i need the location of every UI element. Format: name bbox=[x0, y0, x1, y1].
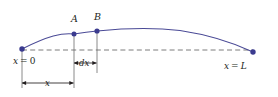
marker-point-b bbox=[94, 28, 99, 33]
deflected-curve bbox=[22, 29, 253, 52]
marker-point-a bbox=[72, 32, 77, 37]
label-origin-equals: = bbox=[20, 56, 28, 66]
label-origin-value: 0 bbox=[30, 56, 36, 66]
label-end-equals: = bbox=[231, 61, 239, 71]
label-origin-coordinate: x=0 bbox=[13, 57, 35, 66]
label-end-value: L bbox=[241, 61, 247, 71]
diagram-canvas bbox=[0, 0, 278, 97]
marker-end bbox=[250, 49, 255, 54]
label-end-coordinate: x=L bbox=[224, 62, 247, 71]
label-point-b: B bbox=[94, 12, 101, 22]
label-origin-variable: x bbox=[13, 56, 18, 66]
label-distance-x: x bbox=[45, 79, 50, 88]
label-element-dx: dx bbox=[79, 59, 89, 68]
label-point-a: A bbox=[71, 14, 78, 24]
figure-container: A B x=0 x=L dx x bbox=[0, 0, 278, 97]
label-end-variable: x bbox=[224, 61, 229, 71]
marker-origin bbox=[19, 46, 24, 51]
